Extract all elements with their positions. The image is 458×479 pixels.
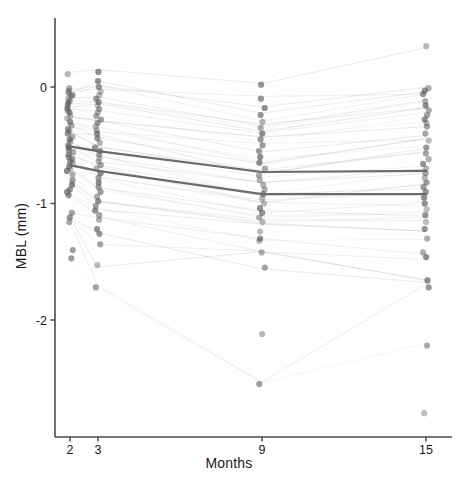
data-point: [422, 200, 428, 206]
x-axis-title: Months: [0, 455, 458, 471]
data-point: [261, 200, 267, 206]
scatter-plot-canvas: 0-1-223915: [0, 0, 458, 479]
data-point: [95, 69, 101, 75]
y-tick-label: 0: [40, 81, 47, 95]
data-point: [259, 119, 265, 125]
data-point: [258, 112, 264, 118]
data-point: [422, 212, 428, 218]
data-point: [262, 105, 268, 111]
data-point: [424, 124, 430, 130]
y-axis-title: MBL (mm): [13, 171, 29, 301]
y-tick-label: -2: [36, 314, 47, 328]
data-point: [97, 140, 103, 146]
data-point: [66, 219, 72, 225]
chart-figure: 0-1-223915 Months MBL (mm): [0, 0, 458, 479]
data-point: [423, 145, 429, 151]
data-point: [423, 150, 429, 156]
data-point: [426, 156, 432, 162]
data-point: [258, 125, 264, 131]
data-point: [97, 241, 103, 247]
data-point: [258, 96, 264, 102]
data-point: [260, 142, 266, 148]
data-point: [95, 78, 101, 84]
x-axis-ticks: 23915: [67, 437, 433, 457]
data-point: [423, 43, 429, 49]
data-point: [259, 131, 265, 137]
data-point: [424, 235, 430, 241]
data-point: [259, 219, 265, 225]
data-point: [426, 284, 432, 290]
data-point: [420, 91, 426, 97]
data-point: [64, 168, 70, 174]
data-point: [92, 207, 98, 213]
data-point: [257, 154, 263, 160]
data-point: [257, 228, 263, 234]
data-point: [94, 262, 100, 268]
data-point: [256, 160, 262, 166]
data-point: [262, 265, 268, 271]
data-point: [423, 254, 429, 260]
data-point: [424, 277, 430, 283]
data-point: [256, 148, 262, 154]
data-point: [68, 255, 74, 261]
y-tick-label: -1: [36, 197, 47, 211]
y-axis-ticks: 0-1-2: [36, 81, 55, 328]
data-point: [256, 238, 262, 244]
data-point: [96, 231, 102, 237]
data-points: [64, 43, 432, 416]
subject-connector-lines: [69, 47, 428, 383]
data-point: [422, 226, 428, 232]
data-point: [422, 131, 428, 137]
data-point: [70, 247, 76, 253]
data-point: [93, 284, 99, 290]
data-point: [262, 166, 268, 172]
axes: [55, 18, 452, 437]
data-point: [423, 219, 429, 225]
data-point: [66, 192, 72, 198]
data-point: [259, 249, 265, 255]
data-point: [258, 82, 264, 88]
mean-trend-lines: [70, 146, 426, 194]
data-point: [424, 343, 430, 349]
data-point: [65, 71, 71, 77]
data-point: [421, 410, 427, 416]
data-point: [96, 217, 102, 223]
data-point: [256, 381, 262, 387]
data-point: [421, 195, 427, 201]
data-point: [70, 171, 76, 177]
data-point: [259, 331, 265, 337]
data-point: [424, 206, 430, 212]
data-point: [258, 136, 264, 142]
data-point: [426, 138, 432, 144]
